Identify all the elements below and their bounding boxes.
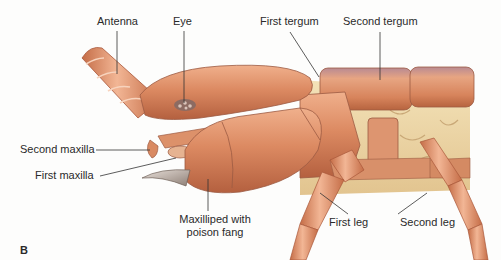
label-second-maxilla: Second maxilla (20, 143, 95, 156)
label-first-maxilla: First maxilla (35, 169, 94, 182)
label-eye: Eye (173, 15, 192, 28)
leader-second-leg (398, 193, 427, 214)
label-maxilliped-line2: poison fang (170, 226, 260, 239)
eye-cluster (174, 99, 196, 111)
anatomy-figure: Antenna Eye First tergum Second tergum S… (0, 0, 501, 260)
label-first-leg: First leg (329, 216, 368, 229)
poison-fang (142, 170, 190, 186)
label-antenna: Antenna (97, 15, 138, 28)
label-maxilliped: Maxilliped with poison fang (170, 213, 260, 239)
panel-letter: B (20, 244, 28, 256)
label-first-tergum: First tergum (260, 15, 319, 28)
label-second-leg: Second leg (400, 216, 455, 229)
label-second-tergum: Second tergum (343, 15, 418, 28)
label-maxilliped-line1: Maxilliped with (170, 213, 260, 226)
